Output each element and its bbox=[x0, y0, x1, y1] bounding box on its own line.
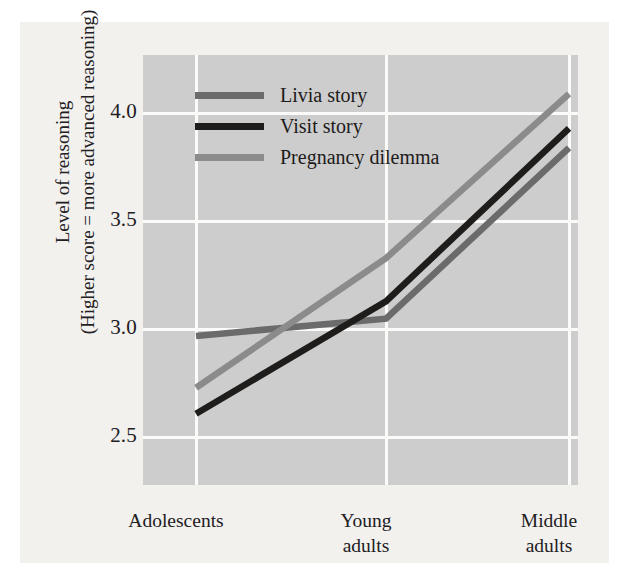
series-line-livia-story bbox=[196, 148, 569, 336]
legend-item-livia-story[interactable]: Livia story bbox=[195, 80, 485, 111]
y-tick-label-2-5: 2.5 bbox=[85, 423, 137, 448]
figure-canvas: 4.03.53.02.5 Level of reasoning (Higher … bbox=[20, 22, 609, 563]
x-tick-label-middle-adults: Middleadults bbox=[459, 509, 627, 559]
x-tick-label-line: adults bbox=[276, 534, 456, 559]
y-axis-title-line-2: (Higher score = more advanced reasoning) bbox=[75, 0, 100, 362]
legend-item-pregnancy-dilemma[interactable]: Pregnancy dilemma bbox=[195, 142, 485, 173]
x-tick-label-line: Adolescents bbox=[86, 509, 266, 534]
x-tick-label-young-adults: Youngadults bbox=[276, 509, 456, 559]
legend-item-visit-story[interactable]: Visit story bbox=[195, 111, 485, 142]
x-tick-label-line: Young bbox=[276, 509, 456, 534]
legend-swatch bbox=[195, 154, 264, 161]
x-tick-label-line: adults bbox=[459, 534, 627, 559]
legend-label: Visit story bbox=[280, 115, 363, 138]
legend-label: Livia story bbox=[280, 84, 367, 107]
legend-label: Pregnancy dilemma bbox=[280, 146, 439, 169]
legend-swatch bbox=[195, 123, 264, 130]
chart-legend: Livia storyVisit storyPregnancy dilemma bbox=[195, 80, 485, 173]
legend-swatch bbox=[195, 92, 264, 99]
x-tick-label-adolescents: Adolescents bbox=[86, 509, 266, 534]
y-axis-title-line-1: Level of reasoning bbox=[50, 0, 75, 362]
y-axis-title: Level of reasoning (Higher score = more … bbox=[50, 0, 110, 362]
x-tick-label-line: Middle bbox=[459, 509, 627, 534]
